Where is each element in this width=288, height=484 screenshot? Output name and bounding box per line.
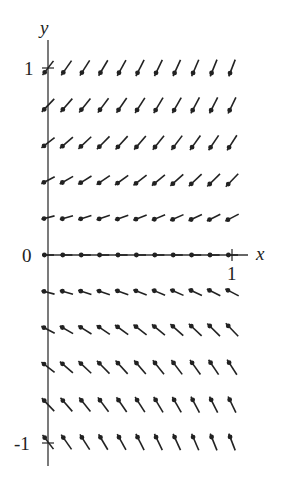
slope-segment-head [80,436,83,439]
slope-segment-head [173,109,176,112]
slope-segment-head [99,436,102,439]
slope-segment-head [171,289,174,292]
slope-segment-head [228,109,231,112]
slope-segment-head [173,435,176,438]
slope-segment-head [98,399,101,402]
slope-segment-head [210,71,213,74]
slope-segment-head [61,145,64,148]
slope-segment-head [80,399,83,402]
slope-segment-head [154,436,157,439]
slope-segment-head [208,289,211,292]
slope-segment-head [191,71,194,74]
slope-segment-head [227,324,230,327]
slope-segment-head [154,71,157,74]
slope-segment-head [116,181,119,184]
slope-segment-head [80,71,83,74]
slope-segment-head [116,145,119,148]
slope-segment-head [98,181,101,184]
slope-segment-head [191,398,194,401]
slope-segment-head [99,71,102,74]
slope-segment-head [153,218,156,221]
slope-segment-head [153,289,156,292]
y-tick-label-1: 1 [24,59,34,78]
slope-segment-head [173,71,176,74]
slope-segment-head [43,399,46,402]
slope-segment-head [42,217,45,220]
slope-segment-head [210,109,213,112]
slope-segment-head [154,398,157,401]
slope-segment-head [227,182,230,185]
slope-segment-head [227,361,230,364]
slope-segment-head [117,436,120,439]
slope-segment-head [191,109,194,112]
slope-segment-head [190,289,193,292]
slope-segment-head [79,181,82,184]
slope-segment-head [190,325,193,328]
y-tick-label-neg1: -1 [14,434,30,453]
slope-segment-head [134,289,137,292]
slope-segment-head [116,325,119,328]
slope-segment-head [43,253,46,256]
slope-segment-head [135,253,138,256]
y-axis-label: y [40,18,48,37]
slope-segment-head [208,218,211,221]
slope-segment-head [210,435,213,438]
slope-segment-head [98,326,101,329]
slope-segment-head [61,362,64,365]
x-tick-label-1: 1 [227,264,237,283]
slope-segment-head [61,217,64,220]
axes [42,40,248,466]
slope-segment-head [117,108,120,111]
slope-segment-head [61,253,64,256]
slope-segment-head [226,289,229,292]
slope-segment-head [116,362,119,365]
slope-segment-head [135,145,138,148]
slope-segment-head [208,324,211,327]
slope-segment-head [98,108,101,111]
slope-segment-head [43,71,46,74]
slope-segments [41,60,238,451]
slope-segment-head [171,325,174,328]
slope-segment-head [208,182,211,185]
slope-segment-head [117,399,120,402]
slope-segment-head [209,361,212,364]
slope-segment-head [62,71,65,74]
slope-segment-head [42,144,45,147]
slope-segment-head [117,71,120,74]
slope-segment-head [80,253,83,256]
slope-segment-head [208,253,211,256]
slope-segment-head [116,289,119,292]
slope-segment-head [136,436,139,439]
x-axis-label: x [256,244,264,263]
slope-segment-head [210,398,213,401]
slope-segment-head [190,218,193,221]
slope-segment-head [98,253,101,256]
slope-segment-head [116,217,119,220]
slope-field-diagram [0,0,288,484]
slope-segment-head [61,181,64,184]
y-tick-label-0: 0 [22,246,32,265]
slope-segment-head [135,108,138,111]
slope-segment-head [135,398,138,401]
slope-segment-head [43,108,46,111]
slope-segment-head [42,181,45,184]
slope-segment-head [228,71,231,74]
slope-segment-head [136,71,139,74]
slope-segment-head [153,145,156,148]
slope-segment-head [79,362,82,365]
slope-segment-head [154,108,157,111]
slope-segment-head [80,108,83,111]
slope-segment-head [79,217,82,220]
slope-segment-head [98,145,101,148]
slope-segment-head [134,182,137,185]
slope-segment-head [43,436,46,439]
slope-segment-head [98,217,101,220]
slope-segment-head [226,218,229,221]
slope-segment-head [190,182,193,185]
slope-segment-head [173,398,176,401]
slope-segment-head [209,146,212,149]
slope-segment-head [172,146,175,149]
slope-segment-head [79,290,82,293]
slope-segment-head [98,289,101,292]
slope-segment-head [135,362,138,365]
